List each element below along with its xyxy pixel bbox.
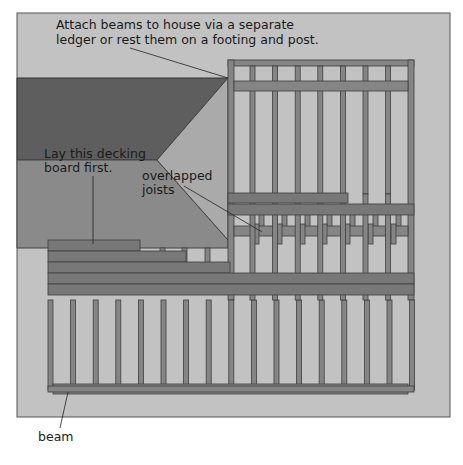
first-board-label-line2: board first. [44,160,112,175]
decking-board-first [48,240,140,251]
attach-beams-label-line2: ledger or rest them on a footing and pos… [56,32,319,47]
decking-board-upper [228,193,348,203]
lower-joist [364,300,369,390]
decking-board [48,262,230,273]
lower-joist [161,300,166,390]
beam-label: beam [38,429,73,444]
lower-joist [138,300,143,390]
lower-rim-joist [48,386,414,392]
overlapped-joists-label-line1: overlapped [142,168,213,183]
lower-joist [184,300,189,390]
lower-joist [71,300,76,390]
lower-joist [116,300,121,390]
deck-framing-diagram: Attach beams to house via a separate led… [0,0,463,465]
overlapped-joist [368,224,373,244]
diagram-canvas: Attach beams to house via a separate led… [0,0,463,465]
overlapped-joists-label-line2: joists [141,182,175,197]
overlapped-joist [300,224,305,244]
lower-joist [251,300,256,390]
lower-joist [410,300,415,390]
lower-joist [229,300,234,390]
lower-joist [93,300,98,390]
decking-board [48,251,186,262]
overlapped-joist [391,224,396,244]
first-board-label-line1: Lay this decking [44,146,146,161]
lower-joist [387,300,392,390]
lower-joist [297,300,302,390]
lower-joist [274,300,279,390]
lower-joist [342,300,347,390]
upper-rim-joist-top [228,60,414,66]
lower-joist [206,300,211,390]
lower-joist [319,300,324,390]
upper-right-rim [408,60,414,300]
decking-board [48,284,414,295]
decking-board-upper-long [228,204,414,215]
attach-beams-label-line1: Attach beams to house via a separate [56,17,294,32]
upper-beam [234,81,408,91]
decking-board [48,273,414,284]
lower-joist [48,300,53,390]
